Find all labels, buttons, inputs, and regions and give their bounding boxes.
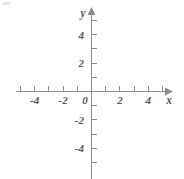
y-tick-label--4: -4 bbox=[75, 142, 85, 154]
y-tick-label-2: 2 bbox=[78, 57, 85, 69]
x-axis-label: x bbox=[165, 94, 172, 106]
x-tick-label--4: -4 bbox=[30, 94, 40, 106]
x-tick-label-2: 2 bbox=[116, 94, 123, 106]
y-tick-label-4: 4 bbox=[78, 29, 85, 41]
x-tick-label-4: 4 bbox=[145, 94, 152, 106]
coordinate-plane-figure: -4 -2 2 4 0 4 2 -2 -4 x y bbox=[0, 0, 184, 179]
coordinate-axes-svg: -4 -2 2 4 0 4 2 -2 -4 x y bbox=[0, 0, 184, 179]
y-axis-label: y bbox=[78, 7, 86, 20]
y-tick-label--2: -2 bbox=[75, 114, 85, 126]
x-tick-label--2: -2 bbox=[59, 94, 69, 106]
y-axis-arrowhead bbox=[88, 7, 96, 15]
origin-label: 0 bbox=[82, 94, 88, 106]
